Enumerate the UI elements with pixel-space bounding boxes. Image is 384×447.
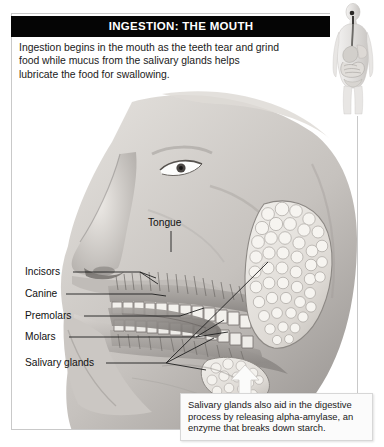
label-salivary-glands: Salivary glands	[25, 357, 94, 368]
label-premolars: Premolars	[25, 310, 71, 321]
label-canine: Canine	[25, 288, 57, 299]
caption-box: Salivary glands also aid in the digestiv…	[180, 393, 373, 441]
page-title: INGESTION: THE MOUTH	[11, 16, 351, 37]
label-tongue: Tongue	[148, 217, 181, 228]
human-body-digestive-figure-icon	[330, 2, 382, 116]
page-canvas: Tongue Incisors Canine Premolars Molars …	[0, 0, 384, 447]
up-arrow-icon	[228, 364, 262, 396]
intro-text: Ingestion begins in the mouth as the tee…	[19, 41, 281, 81]
title-banner: INGESTION: THE MOUTH	[11, 16, 363, 37]
label-incisors: Incisors	[25, 266, 60, 277]
label-molars: Molars	[25, 331, 56, 342]
